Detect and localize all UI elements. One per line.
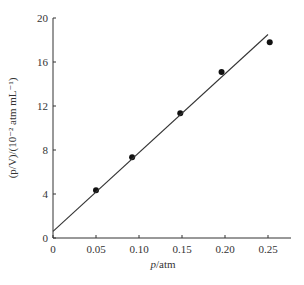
data-point [219, 69, 225, 75]
x-tick-label: 0 [50, 243, 56, 255]
x-axis-label: p/atm [149, 258, 175, 270]
data-point [267, 39, 273, 45]
y-tick-label: 4 [43, 188, 49, 200]
x-tick-label: 0.25 [258, 243, 278, 255]
chart: 04812162000.050.100.150.200.25 p/atm (p/… [0, 0, 304, 285]
y-tick-label: 12 [37, 100, 48, 112]
y-tick-label: 8 [43, 144, 49, 156]
fit-line [53, 35, 268, 232]
plot-area [53, 35, 273, 232]
y-tick-label: 20 [37, 12, 49, 24]
x-tick-label: 0.05 [86, 243, 106, 255]
x-tick-label: 0.15 [172, 243, 192, 255]
y-tick-label: 0 [43, 232, 49, 244]
axes [53, 18, 291, 238]
y-tick-label: 16 [37, 56, 49, 68]
x-tick-label: 0.20 [215, 243, 235, 255]
ticks: 04812162000.050.100.150.200.25 [37, 12, 278, 255]
y-axis-label: (p/V)/(10⁻² atm mL⁻¹) [6, 77, 19, 178]
x-tick-label: 0.10 [129, 243, 149, 255]
